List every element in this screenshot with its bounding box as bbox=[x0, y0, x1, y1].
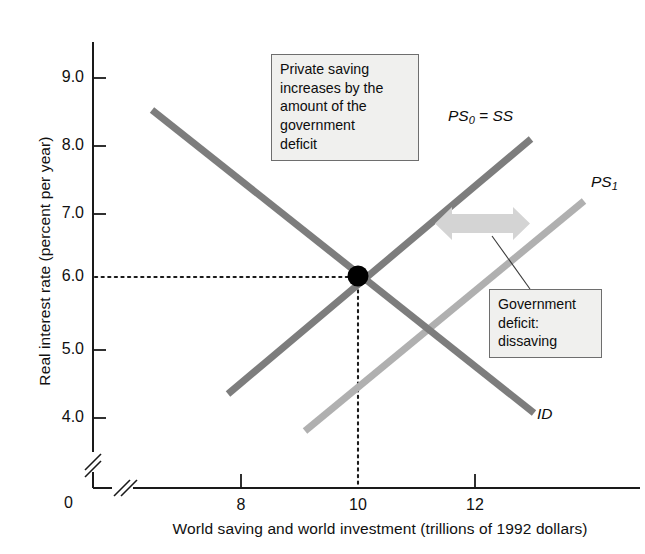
economics-chart-figure: Real interest rate (percent per year) Wo… bbox=[0, 0, 645, 554]
x-tick-label-12: 12 bbox=[455, 496, 495, 514]
origin-label: 0 bbox=[64, 494, 73, 512]
y-tick-marks bbox=[93, 78, 106, 418]
y-tick-label-6: 6.0 bbox=[40, 267, 84, 285]
equilibrium-point-marker bbox=[348, 266, 369, 287]
y-tick-label-5: 5.0 bbox=[40, 340, 84, 358]
y-tick-label-4: 4.0 bbox=[40, 408, 84, 426]
callout-government-deficit: Government deficit: dissaving bbox=[489, 289, 602, 358]
x-axis-title: World saving and world investment (trill… bbox=[120, 520, 640, 538]
shift-arrow-icon bbox=[435, 207, 530, 240]
curve-ps0-ss bbox=[228, 139, 531, 394]
callout-private-saving: Private saving increases by the amount o… bbox=[271, 54, 419, 161]
x-tick-label-8: 8 bbox=[221, 496, 261, 514]
x-tick-label-10: 10 bbox=[338, 496, 378, 514]
y-tick-label-7: 7.0 bbox=[40, 204, 84, 222]
callout-leader-line bbox=[492, 236, 530, 289]
curve-label-ps1: PS1 bbox=[591, 173, 618, 192]
curve-label-ps1-subscript: 1 bbox=[612, 180, 618, 192]
y-tick-label-9: 9.0 bbox=[40, 68, 84, 86]
y-tick-label-8: 8.0 bbox=[40, 136, 84, 154]
curve-label-ps0-equals-ss: = SS bbox=[475, 107, 513, 124]
curve-label-ps0-ss: PS0 = SS bbox=[448, 107, 513, 126]
curve-label-ps1-text: PS bbox=[591, 173, 612, 190]
curve-label-ps0-text: PS bbox=[448, 107, 469, 124]
curve-label-id: ID bbox=[537, 405, 553, 423]
